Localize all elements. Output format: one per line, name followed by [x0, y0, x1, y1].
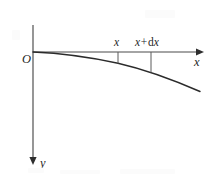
coordinate-diagram [0, 0, 212, 178]
tick-label-x-plus-dx: x+dx [135, 37, 159, 49]
tick-label-differential-variable: x [154, 36, 159, 48]
y-axis-arrow-icon [29, 157, 36, 165]
y-axis-label: y [40, 157, 46, 170]
figure-container: O x y x x+dx [0, 0, 212, 178]
descending-curve [33, 52, 200, 92]
x-axis-label: x [194, 56, 200, 69]
tick-label-x-plus-dx-base: x+ [135, 36, 148, 48]
tick-label-x: x [114, 37, 119, 49]
origin-label: O [22, 53, 31, 66]
